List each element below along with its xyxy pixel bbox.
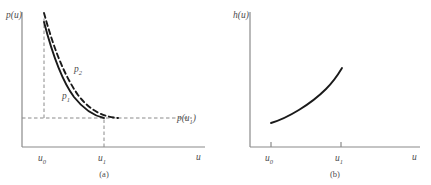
panel-b-xtick-u1: u1: [335, 153, 343, 165]
panel-a-x-axis-label: u: [196, 152, 201, 162]
panel-a-xtick-u0-sub: 0: [43, 158, 47, 165]
panel-a-curve-label-p2: p2: [73, 64, 83, 76]
panel-b-xtick-u1-sub: 1: [340, 158, 343, 165]
panel-a-curve-label-p1-sub: 1: [67, 96, 70, 103]
panel-a-xtick-u0: u0: [38, 153, 47, 165]
panel-a-xtick-u1: u1: [98, 153, 106, 165]
panel-a-curve-p2: [44, 13, 118, 118]
panel-a-level-label-base: p(u: [176, 113, 190, 124]
panel-b-y-axis-label: h(u): [233, 10, 249, 21]
panel-b-caption: (b): [330, 169, 340, 179]
panel-a-xtick-u1-sub: 1: [103, 158, 106, 165]
panel-b-xtick-u0-sub: 0: [270, 158, 274, 165]
panel-a-curve-label-p2-sub: 2: [79, 69, 83, 76]
figure-root: p(u) u u0 u1 p1 p2 p(u1) (a) h(u) u u0 u…: [0, 0, 431, 185]
panel-b-x-axis-label: u: [412, 152, 417, 162]
panel-a-level-label: p(u1): [176, 113, 196, 125]
panel-a-level-label-tail: ): [192, 113, 196, 124]
panel-a-caption: (a): [99, 169, 109, 179]
panel-b-xtick-u0: u0: [265, 153, 274, 165]
panel-a-curve-label-p1: p1: [61, 91, 70, 103]
panel-a-y-axis-label: p(u): [5, 10, 22, 21]
panel-a: p(u) u u0 u1 p1 p2 p(u1) (a): [0, 0, 216, 185]
panel-a-plot: p(u) u u0 u1 p1 p2 p(u1) (a): [0, 0, 216, 185]
panel-b-curve-h: [271, 68, 342, 123]
panel-b-plot: h(u) u u0 u1 (b): [216, 0, 431, 185]
panel-b: h(u) u u0 u1 (b): [216, 0, 431, 185]
